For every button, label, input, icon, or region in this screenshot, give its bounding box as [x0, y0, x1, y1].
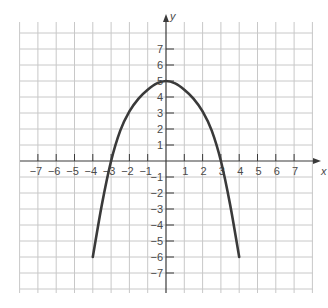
y-tick-label: −1: [150, 171, 163, 183]
x-tick-label: 7: [292, 165, 298, 177]
y-axis-label: y: [169, 10, 177, 22]
parabola-chart: −7−6−5−4−3−2−112345677654321−1−2−3−4−5−6…: [0, 0, 328, 308]
x-axis-arrow-icon: [313, 158, 321, 164]
y-tick-label: −2: [150, 187, 163, 199]
x-tick-label: 2: [201, 165, 207, 177]
y-tick-label: −4: [150, 219, 163, 231]
y-tick-label: 6: [157, 59, 163, 71]
x-tick-label: 5: [255, 165, 261, 177]
x-tick-label: −7: [30, 165, 43, 177]
y-tick-label: 2: [157, 123, 163, 135]
y-tick-label: 1: [157, 139, 163, 151]
y-tick-label: −3: [150, 203, 163, 215]
y-tick-label: −7: [150, 267, 163, 279]
x-tick-label: −5: [66, 165, 79, 177]
y-tick-label: −5: [150, 235, 163, 247]
y-tick-label: 4: [157, 91, 163, 103]
x-tick-label: −2: [121, 165, 134, 177]
y-tick-label: −6: [150, 251, 163, 263]
x-tick-label: 6: [274, 165, 280, 177]
y-tick-label: 3: [157, 107, 163, 119]
y-axis-arrow-icon: [163, 14, 169, 22]
x-tick-label: 4: [237, 165, 243, 177]
x-tick-label: −6: [48, 165, 61, 177]
x-tick-label: −4: [85, 165, 98, 177]
y-tick-label: 7: [157, 43, 163, 55]
x-tick-label: 1: [182, 165, 188, 177]
x-axis-label: x: [320, 165, 327, 177]
